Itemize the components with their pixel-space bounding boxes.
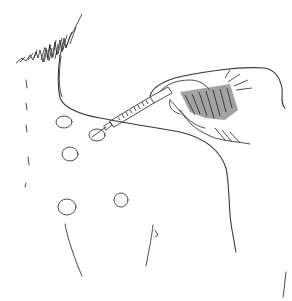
hand bbox=[150, 68, 285, 144]
neck-shoulder-line bbox=[58, 55, 236, 252]
injection-illustration bbox=[0, 0, 292, 301]
hair bbox=[16, 14, 82, 63]
syringe bbox=[92, 87, 172, 137]
spine-dashes bbox=[25, 80, 29, 187]
injection-sites bbox=[56, 116, 128, 215]
